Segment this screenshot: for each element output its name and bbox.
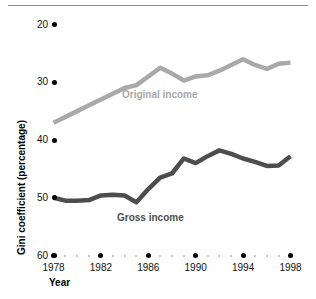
- series-label-gross-income: Gross income: [117, 212, 184, 223]
- x-tick-label: 1994: [223, 262, 263, 273]
- x-tick-dot-minor: [266, 255, 268, 257]
- x-tick-dot-minor: [183, 255, 185, 257]
- x-tick-dot-minor: [278, 255, 280, 257]
- x-tick-dot-minor: [112, 255, 114, 257]
- series-line-gross-income: [54, 150, 291, 202]
- y-axis-title: Gini coefficient (percentage): [16, 118, 27, 258]
- chart-figure: 6050403020 197819821986199019941998 Gini…: [0, 0, 316, 299]
- y-tick-label: 20: [28, 20, 48, 30]
- x-tick-dot-minor: [88, 255, 90, 257]
- x-tick-dot-minor: [254, 255, 256, 257]
- x-tick-dot-minor: [207, 255, 209, 257]
- x-tick-dot-major: [51, 253, 56, 258]
- y-tick-dot: [52, 80, 57, 85]
- y-tick-label: 50: [28, 193, 48, 203]
- y-tick-label: 30: [28, 77, 48, 87]
- x-tick-dot-minor: [159, 255, 161, 257]
- x-tick-label: 1982: [81, 262, 121, 273]
- x-tick-dot-major: [241, 253, 246, 258]
- y-tick-label: 60: [28, 251, 48, 261]
- x-tick-dot-major: [288, 253, 293, 258]
- x-tick-dot-minor: [230, 255, 232, 257]
- x-axis-title: Year: [49, 277, 70, 288]
- x-tick-label: 1986: [128, 262, 168, 273]
- y-tick-label: 40: [28, 135, 48, 145]
- y-tick-dot: [52, 22, 57, 27]
- x-tick-dot-minor: [76, 255, 78, 257]
- x-tick-label: 1978: [34, 262, 74, 273]
- x-tick-dot-major: [146, 253, 151, 258]
- x-tick-dot-minor: [171, 255, 173, 257]
- x-tick-label: 1990: [176, 262, 216, 273]
- series-label-original-income: Original income: [122, 89, 198, 100]
- x-tick-label: 1998: [271, 262, 311, 273]
- x-tick-dot-minor: [124, 255, 126, 257]
- y-tick-dot: [52, 138, 57, 143]
